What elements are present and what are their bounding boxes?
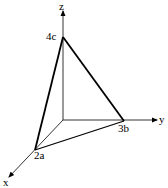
point-b-label: 3b bbox=[118, 122, 130, 134]
z-axis-label: z bbox=[59, 0, 64, 12]
edge-a-c bbox=[35, 37, 63, 150]
edge-c-b bbox=[63, 37, 124, 121]
y-axis-label: y bbox=[159, 113, 165, 125]
tetrahedron-diagram: z y x 4c 3b 2a bbox=[0, 0, 168, 188]
point-c-label: 4c bbox=[46, 30, 57, 42]
point-a-label: 2a bbox=[34, 149, 45, 161]
x-axis-label: x bbox=[3, 176, 9, 188]
